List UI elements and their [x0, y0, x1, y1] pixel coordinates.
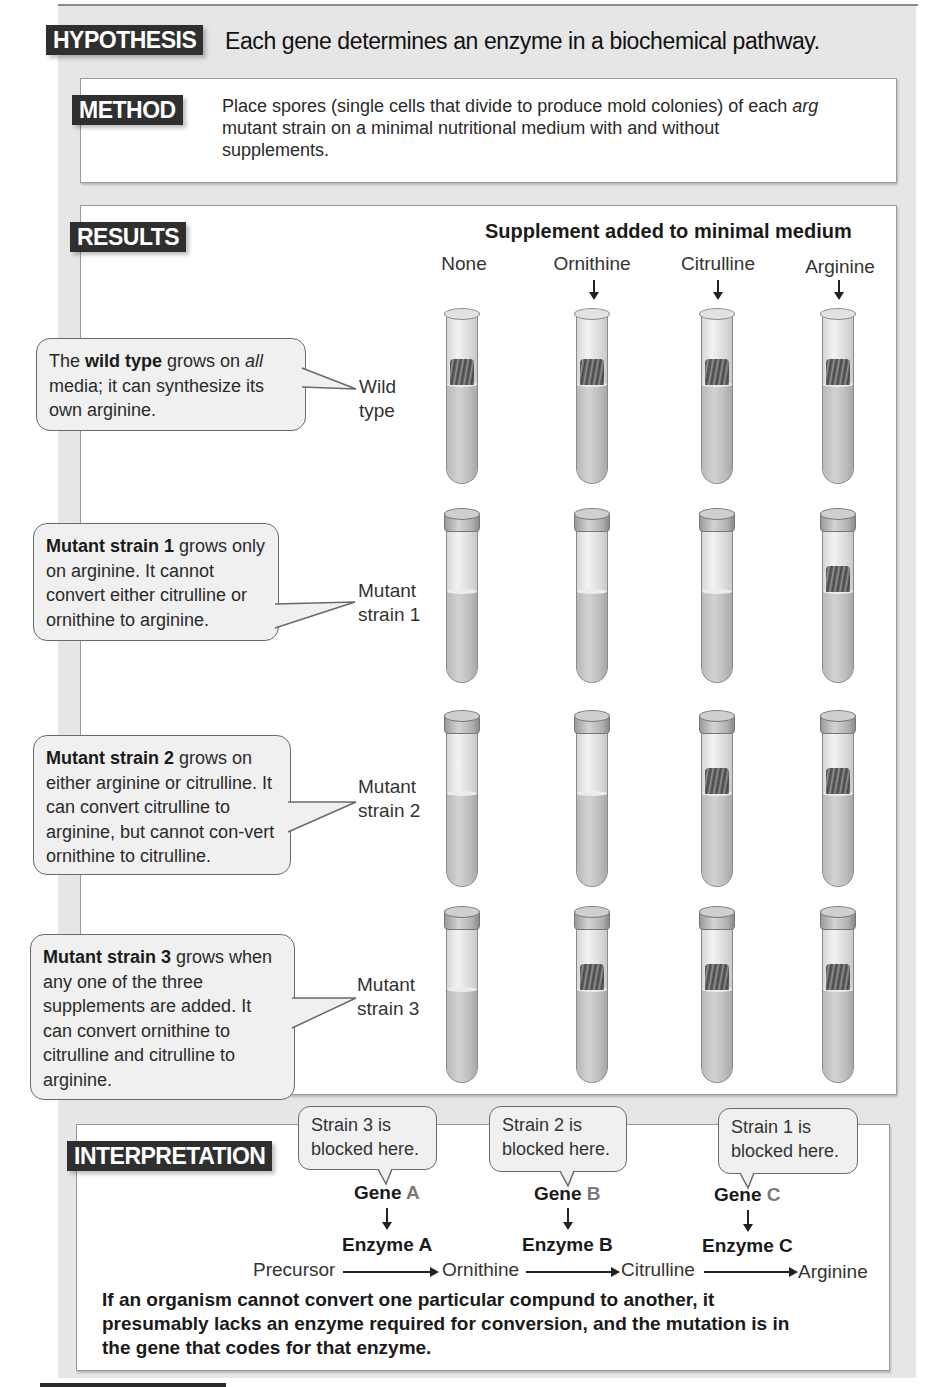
method-label: METHOD — [72, 95, 183, 125]
callout-text: grows on — [162, 351, 245, 371]
hypothesis-text: Each gene determines an enzyme in a bioc… — [225, 28, 820, 55]
callout-tail — [288, 798, 358, 838]
arrow-right-icon — [526, 1271, 612, 1273]
wild-type-callout: The wild type grows on all media; it can… — [36, 338, 306, 431]
mold-growth-icon — [705, 964, 729, 990]
method-text-part: mutant strain on a minimal nutritional m… — [222, 118, 719, 160]
tube-lip — [444, 308, 480, 320]
growth-medium — [702, 592, 732, 682]
tube-body — [822, 314, 854, 484]
arrow-down-icon — [838, 280, 840, 294]
interpretation-label: INTERPRETATION — [67, 1141, 272, 1171]
strain-1-blocked-callout: Strain 1 isblocked here. — [718, 1108, 858, 1174]
growth-medium — [823, 990, 853, 1082]
tube-cap — [574, 910, 610, 930]
tube-cap — [820, 714, 856, 734]
gene-b-label: Gene B — [534, 1183, 601, 1205]
callout-line: blocked here. — [731, 1139, 845, 1163]
test-tube — [444, 508, 480, 682]
tube-body — [822, 526, 854, 683]
growth-medium — [577, 794, 607, 886]
test-tube — [699, 710, 735, 886]
callout-text: The — [49, 351, 85, 371]
gene-word: Gene — [354, 1182, 402, 1203]
arrow-down-icon — [567, 1208, 569, 1224]
gene-word: Gene — [714, 1184, 762, 1205]
tube-cap — [444, 512, 480, 532]
callout-line: Strain 3 is — [311, 1113, 424, 1137]
callout-italic: all — [245, 351, 263, 371]
arrow-down-icon — [593, 280, 595, 294]
method-text-part: Place spores (single cells that divide t… — [222, 96, 792, 116]
enzyme-letter: C — [779, 1235, 793, 1256]
method-text: Place spores (single cells that divide t… — [222, 95, 822, 161]
growth-medium — [702, 794, 732, 886]
pathway-precursor: Precursor — [253, 1259, 335, 1281]
callout-bold: Mutant strain 3 — [43, 947, 171, 967]
growth-medium — [577, 592, 607, 682]
tube-cap — [699, 910, 735, 930]
tube-body — [701, 314, 733, 484]
growth-medium — [447, 990, 477, 1082]
pathway-citrulline: Citrulline — [621, 1259, 695, 1281]
mold-growth-icon — [450, 359, 474, 385]
tube-lip — [820, 308, 856, 320]
hypothesis-label: HYPOTHESIS — [46, 25, 203, 55]
mutant-strain-3-callout: Mutant strain 3 grows when any one of th… — [30, 934, 295, 1100]
tube-body — [576, 526, 608, 683]
gene-letter: A — [406, 1182, 420, 1203]
test-tube — [699, 308, 735, 483]
mold-growth-icon — [580, 359, 604, 385]
test-tube — [820, 508, 856, 682]
tube-cap — [699, 714, 735, 734]
test-tube — [820, 906, 856, 1082]
tube-body — [576, 728, 608, 887]
gene-letter: C — [767, 1184, 781, 1205]
strain-3-blocked-callout: Strain 3 isblocked here. — [298, 1106, 437, 1170]
method-text-italic: arg — [792, 96, 818, 116]
enzyme-letter: A — [418, 1234, 432, 1255]
arrow-down-icon — [386, 1208, 388, 1224]
row-label-line: strain 1 — [358, 603, 420, 627]
callout-line: blocked here. — [502, 1137, 614, 1161]
test-tube — [699, 906, 735, 1082]
row-label-line: Mutant — [358, 775, 420, 799]
test-tube — [574, 508, 610, 682]
callout-text: grows when any one of the three suppleme… — [43, 947, 272, 1090]
supplement-title: Supplement added to minimal medium — [485, 220, 852, 243]
test-tube — [699, 508, 735, 682]
growth-medium — [447, 794, 477, 886]
test-tube — [820, 308, 856, 483]
enzyme-word: Enzyme — [702, 1235, 774, 1256]
enzyme-c-label: Enzyme C — [702, 1235, 793, 1257]
tube-lip — [699, 308, 735, 320]
tube-cap — [820, 512, 856, 532]
strain-2-blocked-callout: Strain 2 isblocked here. — [489, 1106, 627, 1172]
arrow-right-icon — [343, 1271, 431, 1273]
pathway-ornithine: Ornithine — [442, 1259, 519, 1281]
tube-cap — [699, 512, 735, 532]
test-tube — [444, 710, 480, 886]
callout-bold: Mutant strain 2 — [46, 748, 174, 768]
tube-body — [446, 924, 478, 1083]
callout-bold: Mutant strain 1 — [46, 536, 174, 556]
enzyme-letter: B — [599, 1234, 613, 1255]
tube-body — [446, 314, 478, 484]
tube-cap — [574, 512, 610, 532]
arrow-down-icon — [747, 1210, 749, 1226]
row-label-mutant-strain-2: Mutantstrain 2 — [358, 775, 420, 823]
row-label-line: Mutant — [358, 579, 420, 603]
callout-bold: wild type — [85, 351, 162, 371]
gene-letter: B — [587, 1183, 601, 1204]
growth-medium — [823, 385, 853, 483]
growth-medium — [702, 385, 732, 483]
test-tube — [574, 906, 610, 1082]
mold-growth-icon — [826, 566, 850, 592]
growth-medium — [447, 385, 477, 483]
callout-text: media; it can synthesize its own arginin… — [49, 376, 264, 421]
callout-line: blocked here. — [311, 1137, 424, 1161]
mold-growth-icon — [826, 359, 850, 385]
tube-body — [446, 526, 478, 683]
test-tube — [820, 710, 856, 886]
callout-tail — [292, 996, 358, 1036]
